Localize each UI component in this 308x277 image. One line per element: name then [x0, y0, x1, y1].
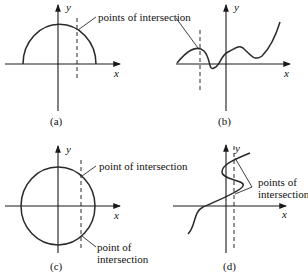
x-axis-label: x — [113, 209, 119, 221]
y-axis-label: y — [234, 142, 240, 154]
caption: (d) — [223, 260, 236, 273]
vertical-line-test-figure: y x points of intersection (a) y x (b) y… — [0, 0, 308, 277]
panel-a: y x points of intersection (a) — [5, 1, 191, 128]
x-axis-label: x — [283, 67, 289, 79]
x-axis-label: x — [113, 67, 119, 79]
leader-line — [78, 17, 96, 30]
function-curve — [177, 22, 280, 68]
leader-line-top — [82, 166, 96, 176]
caption: (b) — [218, 115, 231, 128]
caption: (a) — [50, 115, 63, 128]
panel-d: y x points of intersection (d) — [173, 142, 308, 273]
semicircle-curve — [23, 24, 96, 64]
annotation-bottom-line1: point of — [97, 241, 132, 253]
x-axis-label: x — [281, 208, 287, 220]
annotation-bottom-line2: intersection — [97, 253, 149, 265]
annotation-line1: points of — [258, 176, 297, 188]
annotation-top: point of intersection — [99, 160, 188, 172]
y-axis-label: y — [65, 143, 71, 155]
panel-c: y x point of intersection point of inter… — [5, 143, 188, 273]
annotation: points of intersection — [98, 11, 191, 23]
leader-line-top — [235, 158, 252, 187]
y-axis-label: y — [233, 1, 239, 13]
s-curve — [188, 153, 250, 234]
panel-b: y x (b) — [176, 1, 290, 128]
caption: (c) — [50, 260, 63, 273]
annotation-line2: intersection — [258, 188, 308, 200]
leader-line-bottom — [82, 236, 96, 247]
y-axis-label: y — [65, 1, 71, 13]
